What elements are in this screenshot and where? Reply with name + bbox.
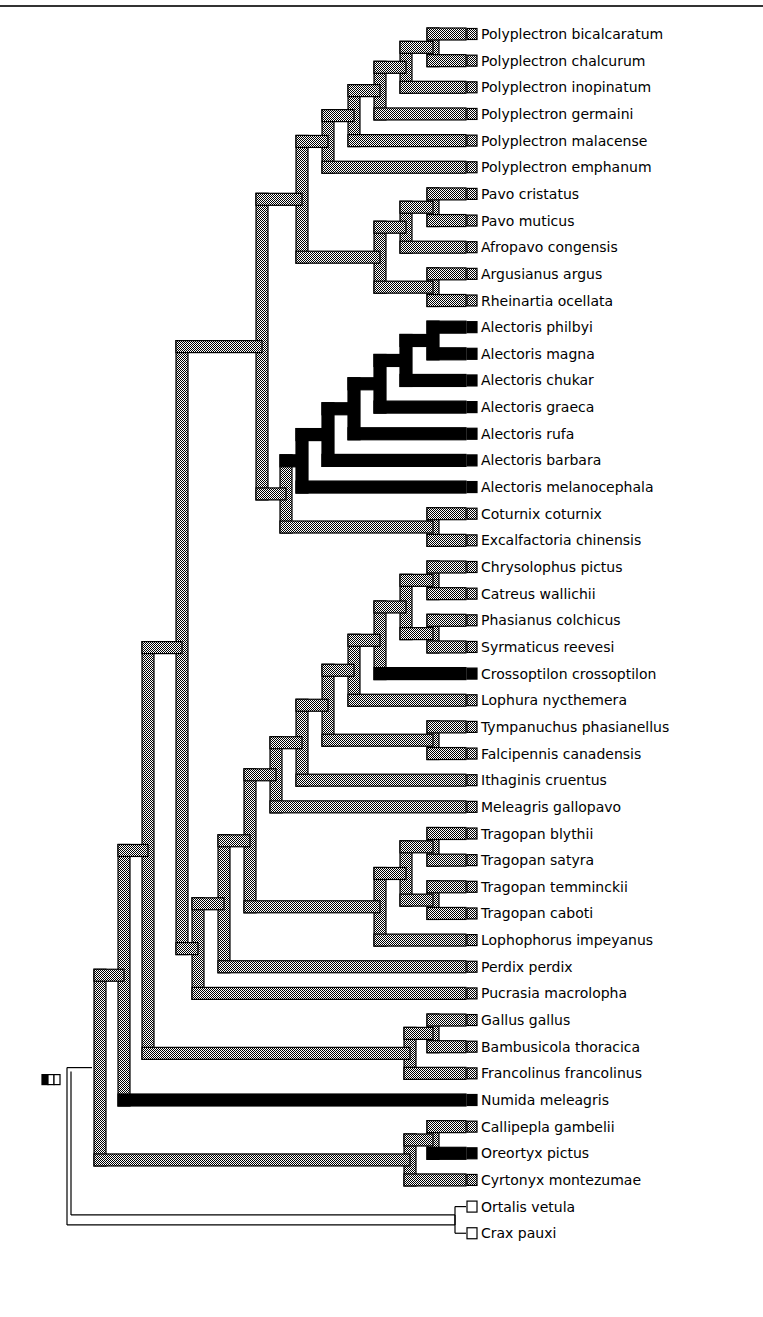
branch-segment bbox=[427, 1041, 466, 1053]
branch-segment bbox=[280, 521, 433, 533]
branch-segment bbox=[374, 354, 406, 366]
branch-segment bbox=[427, 1014, 466, 1026]
terminal-state-box bbox=[467, 82, 477, 93]
branch-segment bbox=[427, 215, 466, 227]
branch-segment bbox=[400, 201, 433, 213]
taxon-label: Ithaginis cruentus bbox=[481, 772, 607, 788]
terminal-state-box bbox=[467, 322, 477, 333]
branch-segment bbox=[322, 664, 354, 676]
branch-segment bbox=[427, 721, 466, 733]
branch-segment bbox=[374, 221, 406, 233]
branch-segment bbox=[374, 668, 466, 680]
branch-segment bbox=[192, 987, 466, 999]
branch-segment bbox=[322, 161, 466, 173]
branch-segment bbox=[427, 881, 466, 893]
terminal-state-box bbox=[467, 108, 477, 119]
taxon-label: Alectoris chukar bbox=[481, 372, 594, 388]
legend-cell bbox=[48, 1075, 54, 1085]
taxon-label: Gallus gallus bbox=[481, 1012, 570, 1028]
taxon-label: Pucrasia macrolopha bbox=[481, 985, 627, 1001]
branch-segment bbox=[244, 901, 380, 913]
branch-segment bbox=[322, 734, 433, 746]
taxon-label: Polyplectron inopinatum bbox=[481, 79, 651, 95]
branch-segment bbox=[348, 428, 466, 440]
terminal-state-box bbox=[467, 641, 477, 652]
branch-segment bbox=[256, 193, 302, 205]
tree-branches bbox=[67, 28, 466, 1233]
taxon-label: Polyplectron emphanum bbox=[481, 159, 652, 175]
branch-segment bbox=[142, 642, 182, 654]
legend-cell bbox=[42, 1075, 48, 1085]
terminal-boxes bbox=[467, 29, 477, 1239]
branch-segment bbox=[296, 699, 328, 711]
terminal-state-box bbox=[467, 508, 477, 519]
taxon-label: Syrmaticus reevesi bbox=[481, 639, 614, 655]
terminal-state-box bbox=[467, 988, 477, 999]
terminal-state-box bbox=[467, 242, 477, 253]
branch-segment bbox=[427, 748, 466, 760]
branch-segment bbox=[400, 374, 466, 386]
terminal-state-box bbox=[467, 455, 477, 466]
branch-segment bbox=[118, 1094, 466, 1106]
taxon-label: Alectoris graeca bbox=[481, 399, 594, 415]
taxon-label: Alectoris barbara bbox=[481, 452, 601, 468]
terminal-state-box bbox=[467, 1201, 477, 1212]
branch-segment bbox=[296, 429, 328, 441]
taxon-label: Coturnix coturnix bbox=[481, 506, 602, 522]
terminal-state-box bbox=[467, 215, 477, 226]
taxon-label: Francolinus francolinus bbox=[481, 1065, 642, 1081]
branch-segment bbox=[427, 268, 466, 280]
branch-segment bbox=[374, 61, 406, 73]
branch-segment bbox=[270, 737, 302, 749]
taxon-label: Alectoris magna bbox=[481, 346, 595, 362]
branch-segment bbox=[404, 1027, 433, 1039]
branch-segment bbox=[374, 281, 433, 293]
branch-segment bbox=[427, 641, 466, 653]
taxon-label: Rheinartia ocellata bbox=[481, 293, 613, 309]
branch-segment bbox=[192, 898, 224, 910]
branch-segment bbox=[400, 41, 433, 53]
taxon-label: Meleagris gallopavo bbox=[481, 799, 621, 815]
taxon-label: Alectoris philbyi bbox=[481, 319, 593, 335]
taxon-label: Tragopan temminckii bbox=[480, 879, 628, 895]
branch-segment bbox=[427, 534, 466, 546]
taxon-label: Ortalis vetula bbox=[481, 1199, 575, 1215]
taxon-label: Crax pauxi bbox=[481, 1225, 556, 1241]
terminal-state-box bbox=[467, 375, 477, 386]
branch-segment bbox=[400, 81, 466, 93]
branch-segment bbox=[400, 628, 433, 640]
branch-segment bbox=[374, 934, 466, 946]
terminal-state-box bbox=[467, 1041, 477, 1052]
terminal-state-box bbox=[467, 562, 477, 573]
root-state-legend-icon bbox=[42, 1075, 60, 1085]
branch-segment bbox=[142, 1047, 410, 1059]
terminal-state-box bbox=[467, 828, 477, 839]
terminal-state-box bbox=[467, 961, 477, 972]
branch-segment bbox=[427, 188, 466, 200]
branch-segment bbox=[400, 241, 466, 253]
terminal-state-box bbox=[467, 1174, 477, 1185]
taxon-label: Tragopan caboti bbox=[480, 905, 593, 921]
terminal-state-box bbox=[467, 55, 477, 66]
branch-segment bbox=[176, 943, 198, 955]
terminal-state-box bbox=[467, 348, 477, 359]
branch-segment bbox=[427, 614, 466, 626]
taxon-label: Perdix perdix bbox=[481, 959, 573, 975]
branch-segment bbox=[118, 844, 148, 856]
taxon-label: Polyplectron chalcurum bbox=[481, 53, 645, 69]
taxon-label: Alectoris melanocephala bbox=[481, 479, 654, 495]
taxon-label: Crossoptilon crossoptilon bbox=[481, 666, 656, 682]
branch-segment bbox=[244, 769, 276, 781]
branch-segment bbox=[94, 1154, 410, 1166]
branch-segment bbox=[348, 135, 466, 147]
branch-segment bbox=[400, 574, 433, 586]
terminal-state-box bbox=[467, 775, 477, 786]
branch-segment bbox=[427, 828, 466, 840]
taxon-label: Oreortyx pictus bbox=[481, 1145, 589, 1161]
branch-segment bbox=[296, 481, 466, 493]
branch-segment bbox=[427, 295, 466, 307]
terminal-state-box bbox=[467, 881, 477, 892]
terminal-state-box bbox=[467, 615, 477, 626]
branch-segment bbox=[427, 854, 466, 866]
branch-segment bbox=[94, 969, 124, 981]
